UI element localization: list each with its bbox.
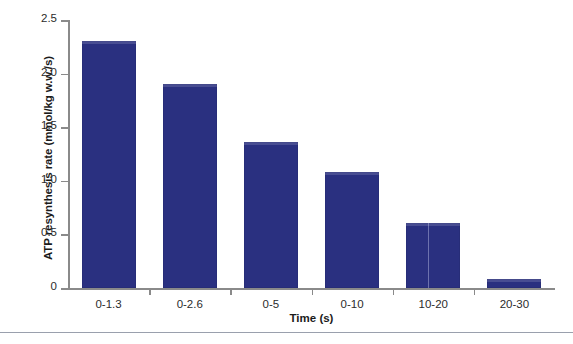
figure-bar-chart: ATP resynthesis rate (mmol/kg w.w./s) 2.… [0, 0, 573, 344]
bar-scan-artifact [428, 223, 429, 288]
y-axis-tick-label: 2.5 [17, 12, 57, 24]
y-axis-tick: 1.0 [61, 181, 68, 183]
clipped-caption-text [16, 336, 561, 344]
bar-highlight [487, 279, 541, 282]
y-axis-title: ATP resynthesis rate (mmol/kg w.w./s) [42, 18, 54, 298]
y-axis-tick: 2.5 [61, 20, 68, 22]
bar-highlight [406, 223, 460, 226]
y-axis-tick: 0 [61, 288, 68, 290]
x-axis-tick-label: 10-20 [393, 298, 474, 310]
plot-area: 2.52.01.51.00.50 0-1.30-2.60-50-1010-202… [68, 20, 555, 288]
y-axis-tick: 0.5 [61, 234, 68, 236]
bar-highlight [244, 142, 298, 145]
y-axis-tick-label: 1.5 [17, 119, 57, 131]
bar-highlight [163, 84, 217, 87]
y-axis-spine [68, 20, 70, 288]
x-axis-tick-label: 0-2.6 [149, 298, 230, 310]
bar [82, 41, 136, 288]
x-axis-tick [230, 288, 232, 295]
page-divider-rule [0, 332, 573, 333]
x-axis-tick-label: 20-30 [474, 298, 555, 310]
y-axis-tick-label: 1.0 [17, 173, 57, 185]
x-axis-spine [62, 288, 555, 290]
bar [325, 172, 379, 288]
y-axis-tick-label: 0 [17, 280, 57, 292]
x-axis-tick-label: 0-10 [312, 298, 393, 310]
x-axis-tick [474, 288, 476, 295]
x-axis-tick [312, 288, 314, 295]
y-axis-tick: 2.0 [61, 74, 68, 76]
bar [163, 84, 217, 288]
x-axis-title: Time (s) [68, 312, 555, 324]
bar-highlight [325, 172, 379, 175]
x-axis-tick [149, 288, 151, 295]
x-axis-tick [393, 288, 395, 295]
bar [244, 142, 298, 288]
bar [406, 223, 460, 288]
y-axis-tick-label: 0.5 [17, 226, 57, 238]
x-axis-tick-label: 0-1.3 [68, 298, 149, 310]
y-axis-tick: 1.5 [61, 127, 68, 129]
bar-highlight [82, 41, 136, 44]
y-axis-tick-label: 2.0 [17, 66, 57, 78]
bar [487, 279, 541, 288]
x-axis-tick-label: 0-5 [230, 298, 311, 310]
